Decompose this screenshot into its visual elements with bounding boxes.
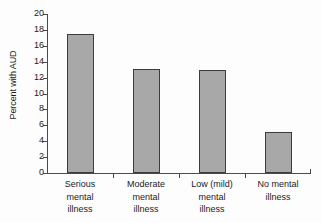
x-axis-category-label-line: mental	[113, 191, 179, 204]
x-axis-category-label-line: illness	[113, 203, 179, 216]
y-axis-tick-label: 4	[39, 135, 44, 146]
x-axis-category-label-line: illness	[245, 191, 311, 204]
x-axis-category-label-line: illness	[179, 203, 245, 216]
bar	[133, 69, 160, 173]
bar	[67, 34, 94, 173]
y-axis-tick-label: 8	[39, 103, 44, 114]
y-axis-tick-label: 14	[34, 56, 44, 67]
y-axis-tick-label: 20	[34, 8, 44, 19]
y-axis-tick-label: 18	[34, 24, 44, 35]
x-axis-category-label: Low (mild)mentalillness	[179, 178, 245, 216]
y-axis-tick-label: 10	[34, 88, 44, 99]
y-axis-tick-label: 16	[34, 40, 44, 51]
x-axis-right-cap	[310, 169, 311, 174]
bar	[265, 132, 292, 173]
x-axis-category-label: No mentalillness	[245, 178, 311, 203]
y-axis-line	[47, 14, 48, 174]
x-axis-category-label: Moderatementalillness	[113, 178, 179, 216]
y-axis-tick-label: 0	[39, 167, 44, 178]
x-axis-category-label-line: mental	[179, 191, 245, 204]
x-axis-category-label-line: Low (mild)	[179, 178, 245, 191]
bar	[199, 70, 226, 173]
x-axis-category-label-line: mental	[47, 191, 113, 204]
x-axis-category-label-line: illness	[47, 203, 113, 216]
x-axis-labels: SeriousmentalillnessModeratementalillnes…	[47, 178, 311, 222]
x-axis-category-label: Seriousmentalillness	[47, 178, 113, 216]
x-axis-category-label-line: No mental	[245, 178, 311, 191]
y-axis-tick-label: 12	[34, 72, 44, 83]
x-axis-category-label-line: Moderate	[113, 178, 179, 191]
plot-area: 02468101214161820	[47, 14, 311, 174]
y-axis-title: Percent with AUD	[8, 25, 18, 145]
y-axis-tick-label: 6	[39, 119, 44, 130]
bar-chart: Percent with AUD 02468101214161820 Serio…	[0, 0, 321, 223]
y-axis-tick-label: 2	[39, 151, 44, 162]
x-axis-category-label-line: Serious	[47, 178, 113, 191]
